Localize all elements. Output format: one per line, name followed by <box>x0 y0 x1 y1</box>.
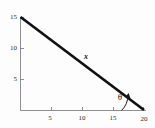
x-tick-label-5: 5 <box>48 115 52 122</box>
x-tick-label-15: 15 <box>110 115 117 122</box>
triangle-figure: 5 10 15 20 15 10 5 x θ <box>0 0 155 128</box>
angle-theta-label: θ <box>118 93 122 102</box>
hypotenuse-segment <box>21 17 145 110</box>
x-tick-label-10: 10 <box>79 115 86 122</box>
x-tick-label-20: 20 <box>141 116 148 123</box>
y-tick-label-5: 5 <box>6 76 17 83</box>
y-tick-label-15: 15 <box>6 14 17 21</box>
figure-canvas <box>0 0 155 128</box>
y-tick-label-10: 10 <box>6 45 17 52</box>
hypotenuse-label: x <box>84 53 88 61</box>
